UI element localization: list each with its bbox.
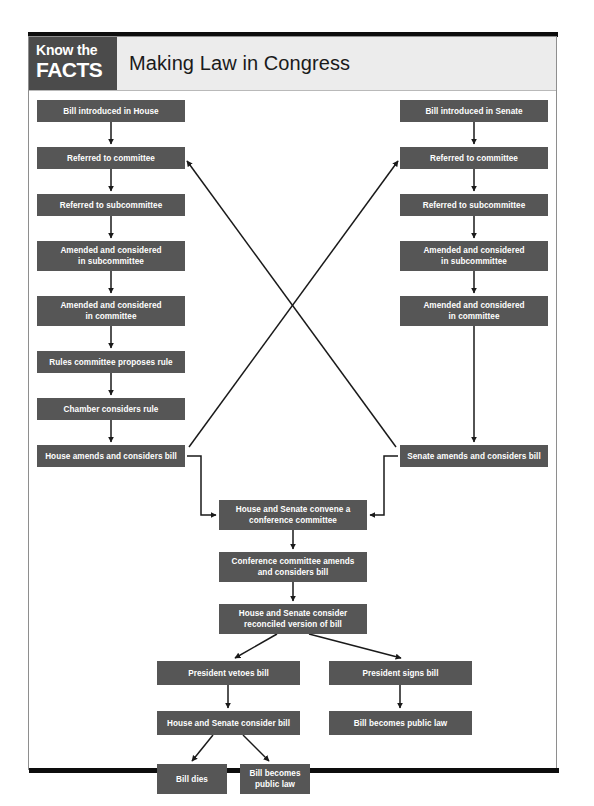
flow-node-public_law_a: Bill becomespublic law [240,764,310,794]
flow-node-house_rules: Rules committee proposes rule [37,351,185,373]
flow-node-label: Bill dies [176,774,208,785]
flow-node-label: Bill becomes public law [354,718,448,729]
flow-node-label: Amended and consideredin subcommittee [423,245,524,267]
flow-node-house_amend_comm: Amended and consideredin committee [37,296,185,326]
flow-node-label: Bill introduced in Senate [425,106,522,117]
flow-node-label: Amended and consideredin committee [60,300,161,322]
flow-node-house_subcomm: Referred to subcommittee [37,194,185,216]
flow-node-house_chamber: Chamber considers rule [37,398,185,420]
flow-node-label: Conference committee amendsand considers… [232,556,355,578]
flow-node-senate_subcomm: Referred to subcommittee [400,194,548,216]
flow-node-senate_amends: Senate amends and considers bill [400,445,548,467]
flow-node-conference_amends: Conference committee amendsand considers… [219,552,367,582]
flow-node-label: Referred to committee [67,153,155,164]
flow-node-label: Bill becomespublic law [249,768,300,790]
flow-node-house_amend_sub: Amended and consideredin subcommittee [37,241,185,271]
flow-node-label: Senate amends and considers bill [407,451,541,462]
badge-line-1: Know the [36,42,117,58]
flow-node-veto: President vetoes bill [157,661,300,685]
page-title: Making Law in Congress [129,52,350,75]
flow-node-label: House and Senate consider bill [167,718,290,729]
flow-node-house_amends: House amends and considers bill [37,445,185,467]
flowchart-canvas: Bill introduced in HouseReferred to comm… [29,91,556,770]
flow-node-label: Amended and consideredin committee [423,300,524,322]
flow-node-label: House and Senate considerreconciled vers… [239,608,348,630]
flow-node-reconciled: House and Senate considerreconciled vers… [219,604,367,634]
flow-node-house_intro: Bill introduced in House [37,100,185,122]
flow-node-reconsider: House and Senate consider bill [157,711,300,735]
header-bar: Know the FACTS Making Law in Congress [29,37,556,91]
flow-node-label: President vetoes bill [188,668,269,679]
poster-root: Know the FACTS Making Law in Congress [0,0,594,806]
flow-node-senate_amend_comm: Amended and consideredin committee [400,296,548,326]
badge-line-2: FACTS [36,58,117,81]
flow-node-label: House amends and considers bill [45,451,177,462]
flow-node-label: President signs bill [362,668,438,679]
flow-node-label: Rules committee proposes rule [49,357,172,368]
flow-node-label: Chamber considers rule [64,404,159,415]
flow-node-signs: President signs bill [329,661,472,685]
poster-frame: Know the FACTS Making Law in Congress [28,36,557,770]
flow-node-public_law_b: Bill becomes public law [329,711,472,735]
flow-node-house_comm: Referred to committee [37,147,185,169]
flow-node-senate_amend_sub: Amended and consideredin subcommittee [400,241,548,271]
flow-node-label: Amended and consideredin subcommittee [60,245,161,267]
know-the-facts-badge: Know the FACTS [29,37,117,90]
flow-node-label: Referred to committee [430,153,518,164]
flow-node-conference_convene: House and Senate convene aconference com… [219,500,367,530]
flow-node-label: Referred to subcommittee [423,200,526,211]
flow-node-label: Bill introduced in House [63,106,158,117]
flow-node-label: House and Senate convene aconference com… [236,504,351,526]
flow-node-senate_comm: Referred to committee [400,147,548,169]
flow-node-label: Referred to subcommittee [60,200,163,211]
flow-node-senate_intro: Bill introduced in Senate [400,100,548,122]
flow-node-bill_dies: Bill dies [157,764,227,794]
